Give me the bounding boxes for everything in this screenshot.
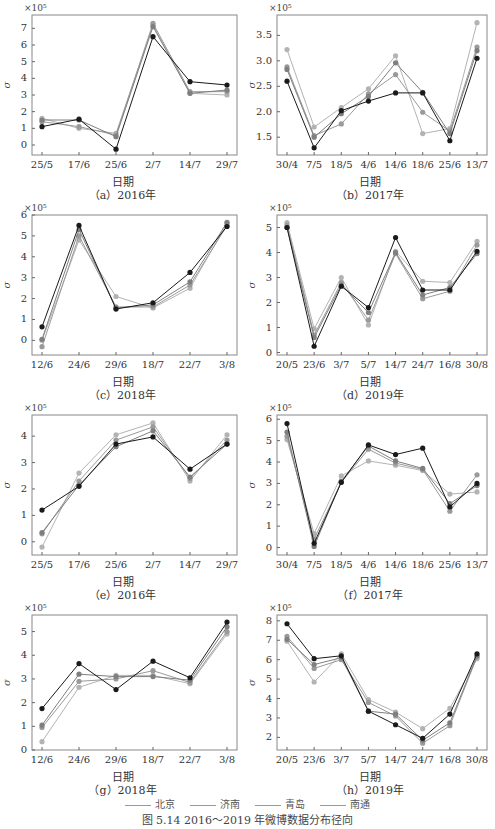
- x-tick-label: 17/6: [68, 559, 90, 570]
- y-tick-label: 1: [21, 122, 27, 133]
- x-tick-label: 25/6: [439, 159, 461, 170]
- x-tick-label: 18/6: [411, 559, 433, 570]
- series-line: [42, 423, 227, 547]
- y-tick-label: 2: [21, 697, 27, 708]
- data-point: [339, 284, 344, 289]
- y-tick-label: 5: [266, 222, 272, 233]
- x-tick-label: 3/7: [333, 359, 349, 370]
- x-tick-label: 18/7: [142, 359, 164, 370]
- data-point: [76, 679, 81, 684]
- y-exponent-label: ×10⁵: [24, 603, 47, 613]
- x-tick-label: 12/6: [31, 359, 53, 370]
- y-exponent-label: ×10⁵: [24, 403, 47, 413]
- data-point: [420, 726, 425, 731]
- data-point: [224, 224, 229, 229]
- chart-panel-e: ×10⁵01234σ 25/517/625/62/714/729/7日期（e）2…: [0, 400, 245, 600]
- x-tick-label: 7/5: [306, 159, 322, 170]
- y-tick-label: 2: [21, 106, 27, 117]
- data-point: [39, 324, 44, 329]
- data-point: [39, 739, 44, 744]
- data-point: [339, 108, 344, 113]
- x-tick-label: 25/5: [31, 559, 53, 570]
- x-tick-label: 18/5: [330, 159, 352, 170]
- data-point: [284, 621, 289, 626]
- series-line: [42, 622, 227, 708]
- data-point: [447, 287, 452, 292]
- data-point: [393, 722, 398, 727]
- data-point: [474, 472, 479, 477]
- y-tick-label: 1: [21, 509, 27, 520]
- data-point: [393, 250, 398, 255]
- data-point: [150, 24, 155, 29]
- data-point: [447, 280, 452, 285]
- y-tick-label: 3: [21, 89, 27, 100]
- y-tick-label: 2.5: [256, 80, 272, 91]
- x-tick-label: 3/7: [333, 754, 349, 765]
- y-tick-label: 2: [266, 731, 272, 742]
- data-point: [224, 441, 229, 446]
- y-tick-label: 2: [21, 293, 27, 304]
- series-line: [42, 27, 227, 137]
- data-point: [39, 337, 44, 342]
- data-point: [393, 53, 398, 58]
- x-tick-label: 30/4: [276, 559, 298, 570]
- data-point: [420, 279, 425, 284]
- x-tick-label: 23/6: [303, 754, 325, 765]
- series-line: [287, 47, 477, 136]
- x-tick-label: 16/8: [439, 359, 461, 370]
- plot-area: [277, 415, 487, 555]
- data-point: [224, 87, 229, 92]
- data-point: [187, 467, 192, 472]
- x-tick-label: 25/6: [105, 159, 127, 170]
- y-tick-label: 4: [21, 72, 27, 83]
- y-tick-label: 7: [266, 634, 272, 645]
- y-axis-label: σ: [1, 80, 12, 88]
- y-tick-label: 3: [266, 272, 272, 283]
- x-tick-label: 12/6: [31, 754, 53, 765]
- legend-item-jinan: 济南: [190, 796, 240, 811]
- series-line: [287, 436, 477, 539]
- data-point: [187, 91, 192, 96]
- data-point: [76, 117, 81, 122]
- data-point: [393, 458, 398, 463]
- data-point: [187, 279, 192, 284]
- y-tick-label: 0: [21, 334, 27, 345]
- x-tick-label: 4/6: [360, 559, 376, 570]
- x-tick-label: 3/8: [219, 754, 235, 765]
- y-tick-label: 2: [266, 297, 272, 308]
- y-exponent-label: ×10⁵: [24, 203, 47, 213]
- x-tick-label: 23/6: [303, 359, 325, 370]
- series-line: [42, 437, 227, 510]
- data-point: [366, 98, 371, 103]
- x-tick-label: 30/8: [466, 754, 488, 765]
- y-tick-label: 4: [266, 693, 272, 704]
- y-tick-label: 3.5: [256, 29, 272, 40]
- data-point: [474, 242, 479, 247]
- x-tick-label: 30/8: [466, 359, 488, 370]
- plot-area: [32, 15, 237, 155]
- y-tick-label: 4: [21, 649, 27, 660]
- series-line: [287, 223, 477, 329]
- x-tick-label: 2/7: [145, 559, 161, 570]
- y-tick-label: 0: [21, 536, 27, 547]
- legend-line-icon: [255, 805, 281, 806]
- data-point: [39, 544, 44, 549]
- x-tick-label: 7/5: [306, 559, 322, 570]
- data-point: [474, 651, 479, 656]
- data-point: [150, 428, 155, 433]
- y-exponent-label: ×10⁵: [269, 3, 292, 13]
- series-line: [287, 23, 477, 134]
- data-point: [474, 20, 479, 25]
- data-point: [447, 504, 452, 509]
- legend-item-beijing: 北京: [125, 796, 175, 811]
- legend-item-nantong: 南通: [320, 796, 370, 811]
- data-point: [393, 235, 398, 240]
- figure-title: 图 5.14 2016～2019 年微博数据分布径向: [0, 811, 495, 827]
- y-tick-label: 4: [266, 247, 272, 258]
- chart-panel-g: ×10⁵012345σ 12/624/629/618/722/73/8日期（g）…: [0, 600, 245, 795]
- plot-area: [277, 615, 487, 750]
- data-point: [39, 344, 44, 349]
- x-tick-label: 5/7: [360, 359, 376, 370]
- data-point: [474, 249, 479, 254]
- y-tick-label: 1.5: [256, 131, 272, 142]
